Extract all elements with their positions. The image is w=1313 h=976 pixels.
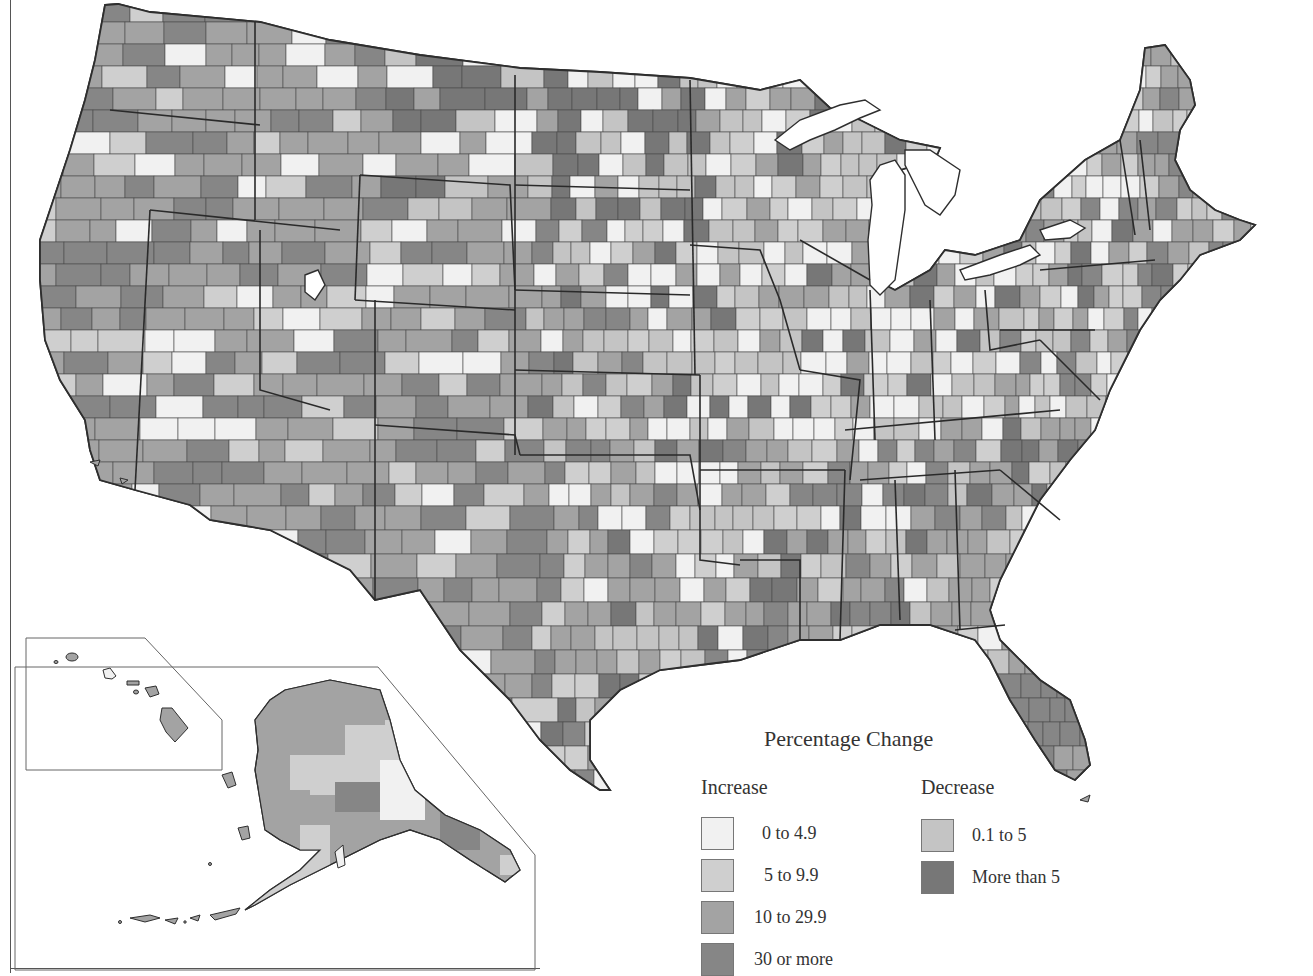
conus-map [30, 0, 1289, 818]
swatch-inc-0-4.9 [701, 817, 734, 850]
swatch-dec-more-5 [921, 861, 954, 894]
swatch-dec-0.1-5 [921, 819, 954, 852]
hawaii-inset [26, 638, 222, 770]
legend-title: Percentage Change [764, 726, 933, 752]
legend-label: 5 to 9.9 [764, 865, 819, 886]
swatch-inc-30-plus [701, 943, 734, 976]
legend-heading-increase: Increase [701, 776, 768, 799]
legend-label: More than 5 [972, 867, 1060, 888]
swatch-inc-10-29.9 [701, 901, 734, 934]
legend-item-inc-0-4.9: 0 to 4.9 [701, 816, 817, 850]
legend: Percentage Change Increase Decrease 0 to… [700, 722, 1120, 973]
legend-item-dec-0.1-5: 0.1 to 5 [921, 818, 1027, 852]
swatch-inc-5-9.9 [701, 859, 734, 892]
legend-item-dec-more-5: More than 5 [921, 860, 1060, 894]
legend-item-inc-30-plus: 30 or more [701, 942, 833, 976]
legend-heading-decrease: Decrease [921, 776, 994, 799]
legend-label: 30 or more [754, 949, 833, 970]
legend-label: 0 to 4.9 [762, 823, 817, 844]
legend-label: 0.1 to 5 [972, 825, 1027, 846]
legend-item-inc-5-9.9: 5 to 9.9 [701, 858, 819, 892]
legend-label: 10 to 29.9 [754, 907, 827, 928]
legend-item-inc-10-29.9: 10 to 29.9 [701, 900, 827, 934]
